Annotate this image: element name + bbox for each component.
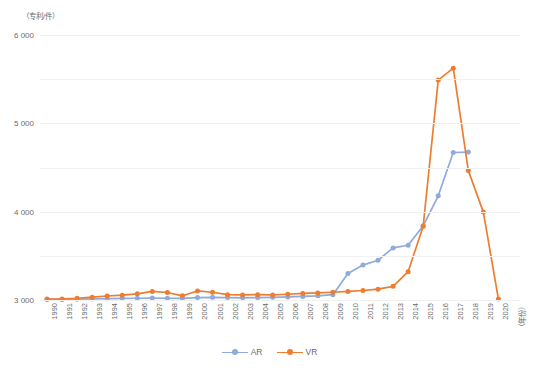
data-point-vr[interactable] xyxy=(195,288,200,293)
data-point-ar[interactable] xyxy=(406,243,411,248)
y-axis-tick-label: 5 000 xyxy=(14,119,34,128)
data-point-ar[interactable] xyxy=(345,271,350,276)
x-axis-tick-label: 2016 xyxy=(441,303,450,320)
x-axis-tick-label: 2019 xyxy=(486,303,495,320)
data-point-ar[interactable] xyxy=(451,150,456,155)
data-point-vr[interactable] xyxy=(391,284,396,289)
x-axis-tick-label: 1999 xyxy=(185,303,194,320)
legend-label: VR xyxy=(306,347,318,357)
data-point-vr[interactable] xyxy=(406,269,411,274)
legend-item-vr[interactable]: VR xyxy=(277,347,318,357)
plot-area: 6 0005 0004 0003 0002 0001 0000 xyxy=(40,35,520,300)
x-axis-tick-label: 1990 xyxy=(50,303,59,320)
x-axis-tick-label: 2006 xyxy=(291,303,300,320)
chart-container: （专利/件） 6 0005 0004 0003 0002 0001 0000 1… xyxy=(0,0,539,378)
data-point-vr[interactable] xyxy=(105,294,110,299)
data-point-vr[interactable] xyxy=(376,287,381,292)
data-point-vr[interactable] xyxy=(90,295,95,300)
x-axis-tick-label: 2017 xyxy=(456,303,465,320)
x-axis-tick-label: 2005 xyxy=(276,303,285,320)
x-axis-tick-label: 2020 xyxy=(501,303,510,320)
data-point-vr[interactable] xyxy=(285,292,290,297)
legend-label: AR xyxy=(251,347,263,357)
x-axis-tick-label: 2010 xyxy=(351,303,360,320)
x-axis-tick-label: 2002 xyxy=(231,303,240,320)
series-line-vr xyxy=(47,68,498,299)
x-axis-tick-label: 1992 xyxy=(80,303,89,320)
data-point-ar[interactable] xyxy=(360,263,365,268)
x-axis-tick-label: 2001 xyxy=(216,303,225,320)
chart-legend: ARVR xyxy=(0,347,539,357)
x-axis-tick-label: 1998 xyxy=(170,303,179,320)
legend-swatch-vr xyxy=(277,348,303,357)
x-axis-tick-label: 2008 xyxy=(321,303,330,320)
x-axis-tick-label: 2018 xyxy=(471,303,480,320)
gridline: 2 000 xyxy=(40,212,520,213)
y-axis-tick-label: 3 000 xyxy=(14,296,34,305)
data-point-vr[interactable] xyxy=(300,291,305,296)
gridline: 5 000 xyxy=(40,79,520,80)
y-axis-tick-label: 6 000 xyxy=(14,31,34,40)
x-axis-tick-label: 2012 xyxy=(381,303,390,320)
data-point-vr[interactable] xyxy=(225,292,230,297)
y-axis-tick-label: 4 000 xyxy=(14,207,34,216)
gridline: 6 000 xyxy=(40,35,520,36)
x-axis-tick-label: 1997 xyxy=(155,303,164,320)
gridline: 0 xyxy=(40,300,520,301)
gridline: 1 000 xyxy=(40,256,520,257)
gridline: 3 000 xyxy=(40,168,520,169)
data-point-vr[interactable] xyxy=(330,290,335,295)
data-point-vr[interactable] xyxy=(255,292,260,297)
data-point-vr[interactable] xyxy=(165,290,170,295)
x-axis-tick-label: 2011 xyxy=(366,303,375,319)
x-axis-tick-label: 2000 xyxy=(200,303,209,320)
data-point-ar[interactable] xyxy=(436,193,441,198)
data-point-ar[interactable] xyxy=(391,245,396,250)
x-axis-tick-label: 2015 xyxy=(426,303,435,320)
data-point-vr[interactable] xyxy=(466,168,471,173)
data-point-vr[interactable] xyxy=(120,293,125,298)
gridline: 4 000 xyxy=(40,123,520,124)
data-point-vr[interactable] xyxy=(360,288,365,293)
x-axis-labels: 1990199119921993199419951996199719981999… xyxy=(40,303,520,343)
x-axis-tick-label: 2004 xyxy=(261,303,270,320)
x-axis-tick-label: 2007 xyxy=(306,303,315,320)
data-point-vr[interactable] xyxy=(451,66,456,71)
x-axis-tick-label: 2009 xyxy=(336,303,345,320)
legend-swatch-ar xyxy=(222,348,248,357)
data-point-vr[interactable] xyxy=(240,292,245,297)
x-axis-tick-label: 1991 xyxy=(65,303,74,320)
x-axis-tick-label: 2014 xyxy=(411,303,420,320)
x-axis-tick-label: 1995 xyxy=(125,303,134,320)
data-point-ar[interactable] xyxy=(376,258,381,263)
legend-marker-dot-icon xyxy=(232,349,238,355)
x-axis-tick-label: 1994 xyxy=(110,303,119,320)
x-axis-unit-label: （年份） xyxy=(516,303,527,331)
x-axis-tick-label: 2013 xyxy=(396,303,405,320)
x-axis-tick-label: 1993 xyxy=(95,303,104,320)
series-line-ar xyxy=(47,152,468,300)
y-axis-unit-label: （专利/件） xyxy=(22,10,59,21)
data-point-vr[interactable] xyxy=(345,289,350,294)
x-axis-tick-label: 1996 xyxy=(140,303,149,320)
data-point-vr[interactable] xyxy=(180,293,185,298)
data-point-vr[interactable] xyxy=(150,289,155,294)
data-point-vr[interactable] xyxy=(315,290,320,295)
data-point-vr[interactable] xyxy=(210,290,215,295)
data-point-vr[interactable] xyxy=(270,292,275,297)
data-point-vr[interactable] xyxy=(421,224,426,229)
legend-item-ar[interactable]: AR xyxy=(222,347,263,357)
data-point-vr[interactable] xyxy=(135,291,140,296)
x-axis-tick-label: 2003 xyxy=(246,303,255,320)
legend-marker-dot-icon xyxy=(287,349,293,355)
